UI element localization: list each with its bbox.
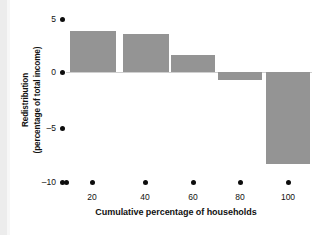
x-axis-origin-dot	[64, 180, 69, 185]
x-axis-title: Cumulative percentage of households	[40, 207, 312, 217]
x-tick-label-20: 20	[75, 192, 109, 202]
x-tick-dot-100	[286, 180, 291, 185]
y-axis-title-line-2: (percentage of total income)	[31, 47, 43, 154]
bar-40	[123, 34, 169, 72]
page-edge-strip	[0, 0, 7, 235]
y-tick-dot-0	[60, 70, 65, 75]
y-tick-label-0: 0	[30, 66, 56, 78]
bar-20	[70, 31, 116, 72]
y-axis-title: Redistribution (percentage of total inco…	[10, 0, 52, 200]
x-tick-label-100: 100	[271, 192, 305, 202]
bar-100	[266, 72, 310, 164]
y-tick-dot-5	[60, 17, 65, 22]
y-tick-dot-m5	[60, 126, 65, 131]
y-axis-title-line-1: Redistribution	[20, 47, 32, 154]
x-tick-label-40: 40	[128, 192, 162, 202]
x-tick-dot-80	[238, 180, 243, 185]
bar-80	[218, 72, 262, 80]
x-tick-label-60: 60	[176, 192, 210, 202]
chart-figure: Redistribution (percentage of total inco…	[0, 0, 319, 235]
y-tick-label-m10: –10	[30, 176, 56, 188]
x-tick-dot-60	[191, 180, 196, 185]
x-tick-dot-40	[143, 180, 148, 185]
x-tick-dot-20	[90, 180, 95, 185]
y-tick-label-m5: –5	[30, 122, 56, 134]
x-tick-label-80: 80	[223, 192, 257, 202]
y-tick-label-5: 5	[30, 13, 56, 25]
plot-area	[66, 14, 312, 186]
bar-60	[171, 55, 215, 72]
